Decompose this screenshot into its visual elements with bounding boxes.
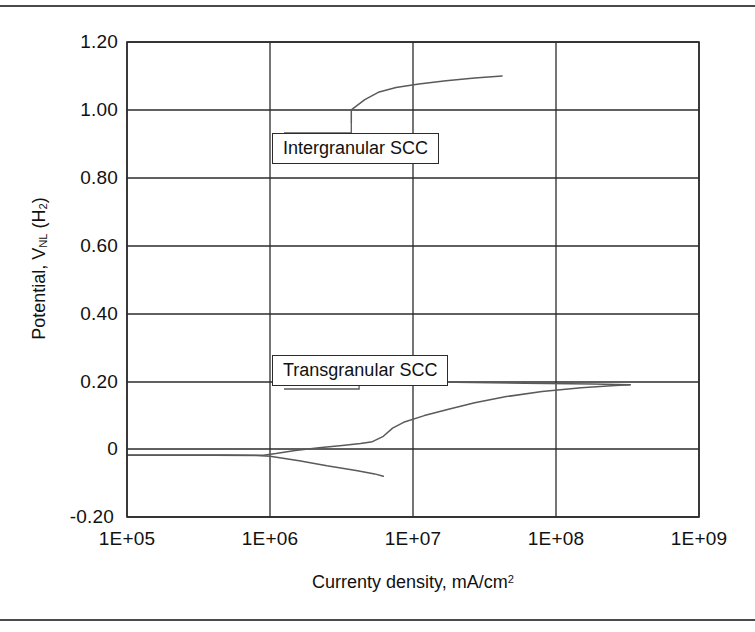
- ytick-label--0.20: -0.20: [44, 506, 114, 528]
- ytick-label-0.60: 0.60: [48, 235, 118, 257]
- y-axis-label-close: ): [29, 197, 49, 203]
- figure-container: 1.20 1.00 0.80 0.60 0.40 0.20 0 -0.20 1E…: [0, 0, 755, 632]
- xtick-label-1E+08: 1E+08: [501, 528, 611, 550]
- ytick-label-0: 0: [48, 438, 118, 460]
- leader-line-intergranular: [284, 122, 351, 133]
- xtick-label-1E+09: 1E+09: [644, 528, 754, 550]
- x-gridlines: [127, 42, 699, 517]
- y-axis-label-subscript: NL: [37, 233, 49, 247]
- chart-plot-area: 1.20 1.00 0.80 0.60 0.40 0.20 0 -0.20 1E…: [0, 0, 755, 632]
- ytick-label-1.00: 1.00: [48, 99, 118, 121]
- y-axis-label-suffix: (H: [29, 209, 49, 233]
- y-axis-label-sub2: 2: [37, 203, 49, 209]
- annotation-transgranular-scc: Transgranular SCC: [272, 355, 448, 386]
- ytick-label-0.20: 0.20: [48, 371, 118, 393]
- curve-intergranular-branch: [351, 76, 502, 123]
- ytick-label-0.40: 0.40: [48, 303, 118, 325]
- annotation-intergranular-scc: Intergranular SCC: [272, 133, 439, 164]
- y-axis-label: Potential, VNL (H2): [29, 154, 50, 384]
- ytick-label-0.80: 0.80: [48, 167, 118, 189]
- x-axis-label: Currenty density, mA/cm2: [127, 572, 699, 593]
- x-axis-label-prefix: Currenty density, mA/cm: [312, 572, 508, 592]
- y-axis-label-prefix: Potential, V: [29, 248, 49, 340]
- x-axis-label-superscript: 2: [508, 573, 514, 585]
- xtick-label-1E+07: 1E+07: [358, 528, 468, 550]
- curve-anodic-branch-transgranular: [127, 385, 630, 456]
- curve-cathodic-branch: [127, 455, 383, 476]
- ytick-label-1.20: 1.20: [48, 31, 118, 53]
- xtick-label-1E+05: 1E+05: [72, 528, 182, 550]
- xtick-label-1E+06: 1E+06: [215, 528, 325, 550]
